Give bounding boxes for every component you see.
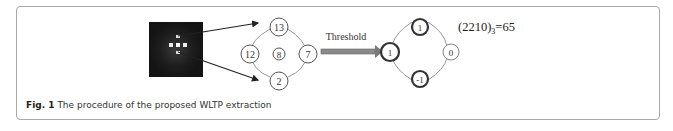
threshold-bottom-value: -1 [416,75,424,85]
neighborhood-ring: 13 12 8 7 2 [241,18,317,90]
neighbor-center-value: 8 [277,50,282,60]
neighbor-bottom-value: 2 [277,76,282,87]
neighbor-top-value: 13 [274,22,284,33]
threshold-label: Threshold [326,31,367,42]
figure-diagram: 13 12 8 7 2 Threshold 1 1 0 -1 (2210)3=6… [0,0,673,131]
caption-text: The procedure of the proposed WLTP extra… [57,100,271,110]
formula-main: (2210) [458,20,491,34]
formula-result: =65 [495,20,515,34]
caption-label: Fig. 1 [26,100,55,110]
threshold-top-value: 1 [418,23,423,33]
neighbor-left-value: 12 [245,49,255,60]
figure-caption: Fig. 1 The procedure of the proposed WLT… [26,100,272,110]
sample-image [149,22,203,77]
threshold-left-value: 1 [388,48,393,58]
code-formula: (2210)3=65 [458,20,515,36]
thresholded-ring: 1 1 0 -1 [381,19,459,87]
threshold-right-value: 0 [449,48,454,58]
neighbor-right-value: 7 [306,49,311,60]
threshold-arrow [321,45,383,58]
